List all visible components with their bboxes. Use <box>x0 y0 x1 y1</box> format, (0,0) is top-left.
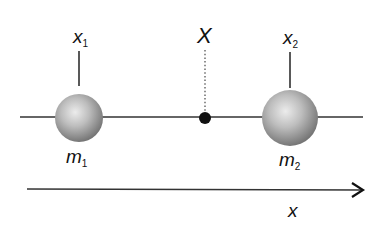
m1-label-base: m <box>66 146 82 167</box>
x-axis-label: x <box>287 200 299 221</box>
center-of-mass-dot <box>199 112 211 124</box>
x2-label: x2 <box>282 27 299 50</box>
x2-label-subscript: 2 <box>293 39 299 50</box>
mass1-sphere <box>55 94 103 142</box>
x-axis-arrow-line <box>27 189 362 190</box>
m1-label-subscript: 1 <box>82 158 88 169</box>
mass2-sphere <box>262 90 318 146</box>
m2-label-subscript: 2 <box>295 161 301 172</box>
x1-label-subscript: 1 <box>83 38 89 49</box>
center-of-mass-diagram: x1 X x2 m1 m2 x <box>0 0 382 228</box>
x1-label: x1 <box>72 26 89 49</box>
center-of-mass-label: X <box>196 23 213 48</box>
m2-label: m2 <box>279 149 301 172</box>
m2-label-base: m <box>279 149 295 170</box>
m1-label: m1 <box>66 146 88 169</box>
